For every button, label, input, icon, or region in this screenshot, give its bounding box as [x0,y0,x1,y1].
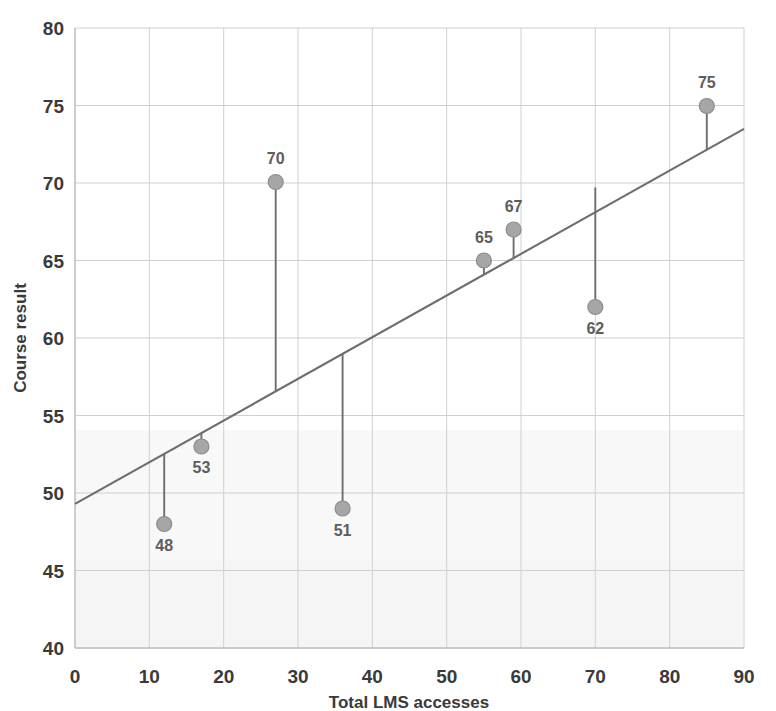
y-tick-label: 75 [43,96,65,117]
y-axis-tick-labels: 80 75 70 65 60 55 50 45 40 [43,18,65,659]
data-point-label: 62 [586,320,604,337]
data-point [588,300,603,315]
x-tick-label: 20 [213,666,234,687]
data-point-label: 65 [475,229,493,246]
x-tick-label: 0 [70,666,81,687]
x-axis-title: Total LMS accesses [329,693,489,711]
x-tick-label: 90 [733,666,754,687]
y-tick-label: 65 [43,251,65,272]
y-tick-label: 40 [43,638,64,659]
x-tick-label: 10 [139,666,160,687]
data-point [506,222,521,237]
data-point-label: 67 [505,198,523,215]
y-tick-label: 60 [43,328,64,349]
data-point-label: 75 [698,74,716,91]
scatter-plot-figure: 48 53 70 51 65 67 62 75 80 75 70 65 60 5… [0,0,776,711]
x-tick-label: 70 [585,666,606,687]
y-tick-label: 45 [43,561,65,582]
data-point-label: 53 [193,459,211,476]
y-axis-title: Course result [11,283,30,393]
data-point [335,501,350,516]
x-tick-label: 40 [362,666,383,687]
x-axis-tick-labels: 0 10 20 30 40 50 60 70 80 90 [70,666,755,687]
chart-canvas: 48 53 70 51 65 67 62 75 80 75 70 65 60 5… [0,0,776,711]
scan-shading-band-lower [76,560,743,647]
data-point [157,517,172,532]
y-tick-label: 55 [43,406,65,427]
y-tick-label: 70 [43,173,64,194]
x-tick-label: 80 [659,666,680,687]
data-point [699,99,714,114]
data-point-label: 51 [334,522,352,539]
data-point [268,175,283,190]
x-tick-label: 50 [436,666,457,687]
data-point [476,253,491,268]
x-tick-label: 30 [287,666,308,687]
data-point-label: 48 [155,537,173,554]
y-tick-label: 80 [43,18,64,39]
data-point [194,439,209,454]
y-tick-label: 50 [43,483,64,504]
x-tick-label: 60 [510,666,531,687]
data-point-label: 70 [267,150,285,167]
